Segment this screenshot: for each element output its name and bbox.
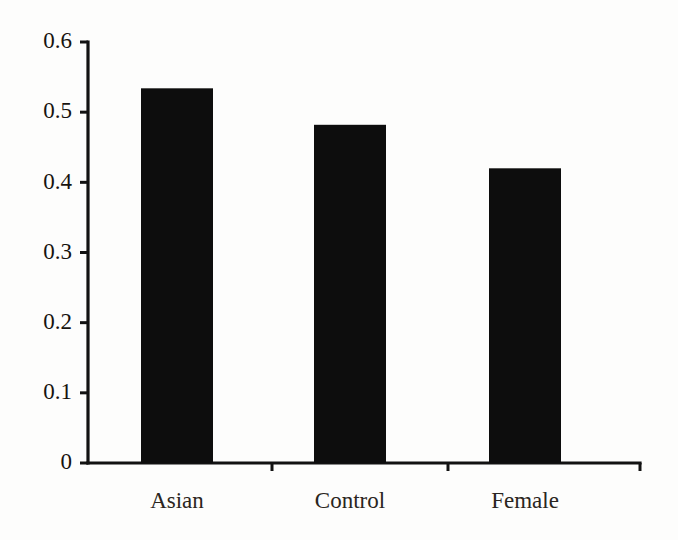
bar-chart-figure: 00.10.20.30.40.50.6 AsianControlFemale — [0, 0, 678, 540]
y-axis-tick-label: 0.1 — [43, 379, 72, 404]
bar — [141, 88, 213, 463]
y-axis-tick-label: 0.5 — [43, 98, 72, 123]
y-axis-tick-label: 0.4 — [43, 169, 72, 194]
x-axis-category-label: Female — [491, 488, 559, 513]
y-axis-tick-label: 0.3 — [43, 239, 72, 264]
x-axis-category-label: Asian — [150, 488, 204, 513]
y-axis-tick-label: 0 — [61, 449, 73, 474]
bar — [489, 168, 561, 463]
y-axis-tick-label: 0.6 — [43, 28, 72, 53]
bar — [314, 125, 386, 463]
chart-canvas: 00.10.20.30.40.50.6 AsianControlFemale — [0, 0, 678, 540]
x-axis-category-label: Control — [315, 488, 385, 513]
y-axis-tick-label: 0.2 — [43, 309, 72, 334]
